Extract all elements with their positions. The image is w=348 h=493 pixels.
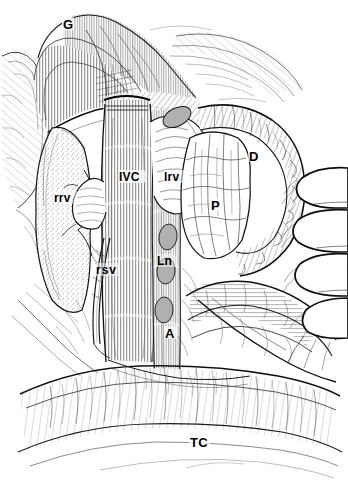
anatomical-figure: G IVC lrv rrv rsv Ln A P D TC bbox=[0, 0, 348, 493]
illustration-canvas bbox=[0, 0, 348, 493]
pancreas bbox=[181, 132, 250, 259]
